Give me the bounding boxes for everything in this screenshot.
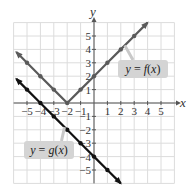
data-point <box>78 87 82 91</box>
data-point <box>132 34 136 38</box>
data-point <box>105 61 109 65</box>
data-point <box>38 74 42 78</box>
x-tick-label: 5 <box>158 105 164 117</box>
y-tick-label: −2 <box>79 124 91 136</box>
data-point <box>25 61 29 65</box>
x-tick-label: −5 <box>21 105 33 117</box>
x-axis-label: x <box>179 95 186 110</box>
y-axis-label: y <box>88 4 96 19</box>
data-point <box>52 87 56 91</box>
y-tick-label: 5 <box>86 30 92 42</box>
y-tick-label: −1 <box>79 110 91 122</box>
data-point <box>65 101 69 105</box>
x-tick-label: 2 <box>118 105 124 117</box>
g-label: y = g(x) <box>29 143 67 157</box>
data-point <box>38 101 42 105</box>
data-point <box>78 141 82 145</box>
callout-pointer <box>62 127 65 141</box>
data-point <box>25 87 29 91</box>
x-tick-label: −2 <box>61 105 73 117</box>
data-point <box>119 47 123 51</box>
x-tick-label: 1 <box>105 105 111 117</box>
data-point <box>52 114 56 118</box>
x-tick-label: 4 <box>145 105 151 117</box>
data-point <box>92 74 96 78</box>
x-tick-label: 3 <box>131 105 137 117</box>
data-point <box>92 154 96 158</box>
y-tick-label: 3 <box>86 57 92 69</box>
y-tick-label: −5 <box>79 164 91 176</box>
data-point <box>105 168 109 172</box>
y-tick-label: 4 <box>86 43 92 55</box>
callout-pointer <box>125 45 133 60</box>
f-label: y = f(x) <box>125 62 161 76</box>
chart: −5−4−3−2−112345−5−4−3−2−112345 y = f(x)y… <box>0 0 191 195</box>
